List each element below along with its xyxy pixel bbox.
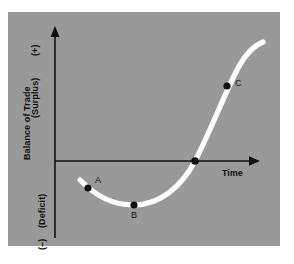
data-point-a[interactable] bbox=[84, 184, 91, 191]
y-axis-plus-sign: (+) bbox=[30, 44, 40, 56]
balance-of-trade-curve bbox=[80, 42, 263, 205]
point-label-c: C bbox=[235, 78, 242, 88]
point-label-b: B bbox=[131, 210, 137, 220]
point-label-a: A bbox=[95, 175, 101, 185]
y-axis-title: Balance of Trade bbox=[22, 86, 32, 160]
data-point-b[interactable] bbox=[130, 201, 137, 208]
data-point-c[interactable] bbox=[223, 82, 230, 89]
y-axis-deficit-label: (Deficit) bbox=[37, 194, 47, 228]
y-axis-minus-sign: (–) bbox=[37, 239, 47, 250]
x-axis-title: Time bbox=[222, 168, 243, 178]
y-axis-arrowhead bbox=[51, 26, 60, 37]
data-point-origin-crossing[interactable] bbox=[191, 157, 199, 165]
x-axis-arrowhead bbox=[249, 156, 260, 165]
figure-root: (+) (Surplus) Balance of Trade (Deficit)… bbox=[0, 0, 294, 264]
